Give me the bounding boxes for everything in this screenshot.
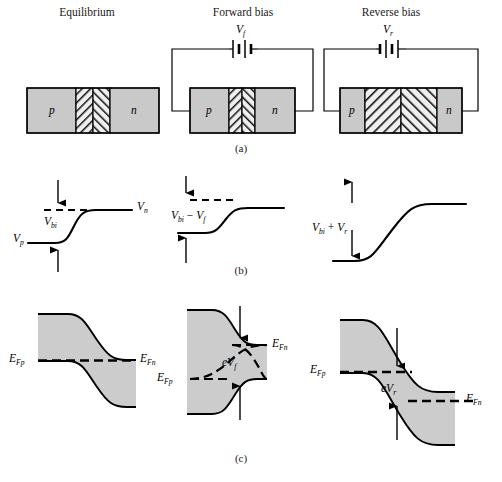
potential-label-vbi: Vbi <box>44 215 57 230</box>
source-label-vr: Vr <box>383 23 393 38</box>
caption-b: (b) <box>221 264 261 276</box>
block-equilibrium <box>27 88 159 133</box>
band-diagram-equilibrium <box>38 314 136 407</box>
potential-label-vbi-plus-vr: Vbi + Vr <box>312 221 347 236</box>
band-diagram-reverse <box>340 320 478 445</box>
band-label-evr: eVr <box>381 382 396 397</box>
band-label-efp-reverse: EFp <box>310 363 325 378</box>
pn-junction-bias-figure: Equilibrium Forward bias Reverse bias <box>0 0 502 482</box>
block-label-p-forward: p <box>206 104 212 116</box>
block-label-n-reverse: n <box>446 104 452 116</box>
row-a-svg <box>0 0 502 150</box>
band-label-efp-equilibrium: EFp <box>9 352 24 367</box>
block-label-n-forward: n <box>272 104 278 116</box>
block-label-p-reverse: p <box>349 104 355 116</box>
caption-a: (a) <box>221 142 261 154</box>
potential-label-vp: Vp <box>13 232 24 247</box>
potential-label-vn: Vn <box>137 200 148 215</box>
block-reverse-bias <box>340 88 462 133</box>
block-label-p-equilibrium: p <box>49 104 55 116</box>
potential-label-vbi-minus-vf: Vbi − Vf <box>171 209 205 224</box>
row-c-svg <box>0 300 502 465</box>
band-label-efn-reverse: EFn <box>466 392 481 407</box>
band-label-efp-forward: EFp <box>157 371 172 386</box>
caption-c: (c) <box>221 452 261 464</box>
source-label-vf: Vf <box>236 23 245 38</box>
band-label-efn-equilibrium: EFn <box>140 352 155 367</box>
band-label-efn-forward: EFn <box>272 337 287 352</box>
block-label-n-equilibrium: n <box>131 104 137 116</box>
band-label-evf: eVf <box>222 356 236 371</box>
row-b-svg <box>0 168 502 278</box>
potential-plot-reverse <box>333 182 466 261</box>
